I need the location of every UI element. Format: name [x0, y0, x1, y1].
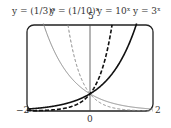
curve-2: [27, 25, 112, 111]
legend-label-ten: y = 10ˣ: [97, 6, 131, 16]
curve-3: [27, 24, 137, 110]
x-min-tick: −2: [16, 105, 29, 115]
curve-0: [43, 24, 153, 110]
y-max-tick: 5: [88, 11, 94, 21]
legend-label-three: y = 3ˣ: [133, 6, 161, 16]
x-zero-tick: 0: [87, 114, 93, 124]
x-max-tick: 2: [155, 105, 161, 115]
